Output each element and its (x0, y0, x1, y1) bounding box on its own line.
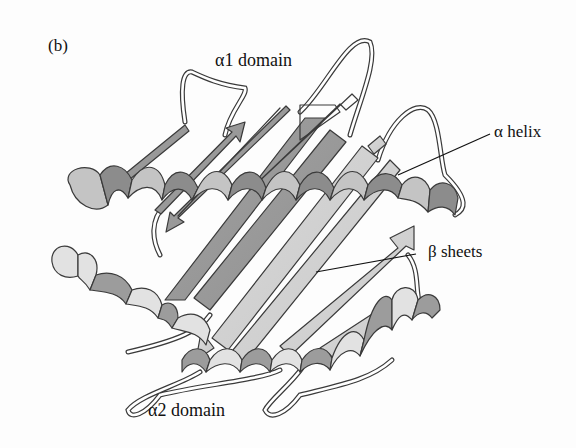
figure-root: (b) α1 domain α helix β sheets α2 domain (0, 0, 576, 448)
beta-sheets-label: β sheets (428, 242, 482, 262)
alpha1-domain-label: α1 domain (215, 50, 292, 71)
beta-sheets-leader (316, 254, 416, 272)
alpha-helix-label: α helix (494, 122, 541, 142)
alpha2-domain-label: α2 domain (148, 400, 225, 421)
panel-label: (b) (48, 36, 68, 56)
